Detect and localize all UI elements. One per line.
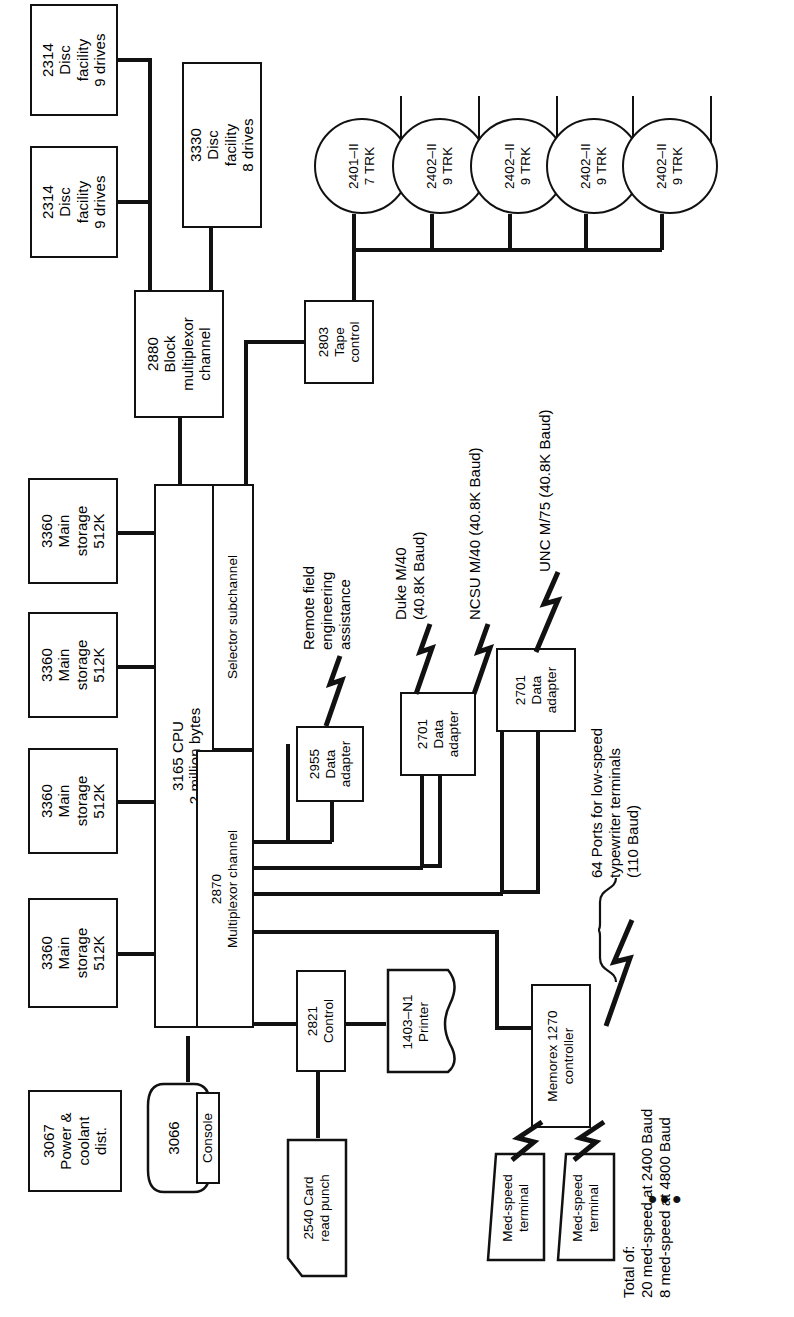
node-label: 2314 Disc facility 9 drives bbox=[39, 175, 109, 228]
link-2880-cpu bbox=[178, 418, 182, 484]
tape-drop-5 bbox=[660, 214, 664, 250]
link-2314b-bus bbox=[118, 200, 152, 204]
node-label: 2402–II 9 TRK bbox=[502, 143, 533, 189]
bolt-icon-ncsu bbox=[464, 622, 498, 696]
tape-drop-1 bbox=[352, 214, 356, 250]
node-label: 3067 Power & coolant dist. bbox=[40, 1112, 110, 1169]
node-med-speed-terminal-2[interactable]: Med-speed terminal bbox=[556, 1152, 616, 1262]
node-label: 2314 Disc facility 9 drives bbox=[39, 33, 109, 86]
node-2701-data-adapter-2[interactable]: 2701 Data adapter bbox=[496, 648, 576, 732]
node-med-speed-terminal-1[interactable]: Med-speed terminal bbox=[486, 1152, 546, 1262]
node-label: 3360 Main storage 512K bbox=[38, 506, 108, 557]
node-label: 2701 Data adapter bbox=[415, 711, 462, 758]
link-mem-2 bbox=[118, 665, 154, 669]
tape-drop-2 bbox=[430, 214, 434, 250]
node-label: Console bbox=[200, 1113, 216, 1163]
node-label: Memorex 1270 controller bbox=[545, 1010, 576, 1101]
mpx-rail-4-v bbox=[495, 930, 499, 1028]
link-mem-4 bbox=[118, 952, 154, 956]
node-label: 2870 Multiplexor channel bbox=[209, 830, 240, 948]
node-label: 3330 Disc facility 8 drives bbox=[187, 118, 257, 171]
node-2803-tape-control[interactable]: 2803 Tape control bbox=[304, 300, 374, 384]
node-2314-disc-a[interactable]: 2314 Disc facility 9 drives bbox=[30, 4, 118, 116]
node-tape-5[interactable]: 2402–II 9 TRK bbox=[622, 118, 718, 214]
node-label: 2402–II 9 TRK bbox=[578, 143, 609, 189]
node-3067-power-coolant[interactable]: 3067 Power & coolant dist. bbox=[28, 1090, 122, 1192]
link-2821-printer bbox=[346, 1022, 386, 1026]
link-2803-tapebus bbox=[352, 250, 356, 300]
link-2314a-bus bbox=[118, 58, 152, 62]
bolt-icon-unc bbox=[528, 570, 566, 654]
mpx-rail-3 bbox=[253, 892, 503, 896]
node-label: 2402–II 9 TRK bbox=[654, 143, 685, 189]
node-label: 2803 Tape control bbox=[316, 321, 363, 362]
mpx-rail-1 bbox=[253, 840, 289, 844]
node-label: 3360 Main storage 512K bbox=[38, 776, 108, 827]
link-mpx-2821 bbox=[253, 1022, 297, 1026]
tape-drop-4 bbox=[584, 214, 588, 250]
node-2880-block-mpx-channel[interactable]: 2880 Block multiplexor channel bbox=[134, 290, 224, 418]
node-2821-control[interactable]: 2821 Control bbox=[296, 970, 346, 1072]
node-selector-subchannel[interactable]: Selector subchannel bbox=[212, 484, 254, 750]
node-2955-data-adapter[interactable]: 2955 Data adapter bbox=[296, 726, 364, 802]
node-label: 2821 Control bbox=[305, 999, 336, 1043]
link-mem-3 bbox=[118, 800, 154, 804]
link-2803-elbow-h bbox=[244, 340, 306, 344]
label-duke-link: Duke M/40 (40.8K Baud) bbox=[392, 532, 428, 620]
node-2540-card-read-punch[interactable]: 2540 Card read punch bbox=[286, 1138, 348, 1278]
node-label: 3066 bbox=[165, 1121, 182, 1154]
node-memorex-1270-controller[interactable]: Memorex 1270 controller bbox=[531, 984, 591, 1128]
diagram-canvas: 2314 Disc facility 9 drives 2314 Disc fa… bbox=[0, 0, 794, 1317]
node-label: 3360 Main storage 512K bbox=[38, 640, 108, 691]
node-label: 3360 Main storage 512K bbox=[38, 928, 108, 979]
label-ncsu-link: NCSU M/40 (40.8K Baud) bbox=[466, 447, 484, 620]
node-console-panel[interactable]: Console bbox=[196, 1092, 220, 1184]
node-label: 2880 Block multiplexor channel bbox=[144, 317, 214, 391]
bolt-icon-med-speed-1 bbox=[508, 1120, 548, 1162]
label-64-ports: 64 Ports for low-speed typewriter termin… bbox=[588, 728, 642, 878]
brace-64-ports bbox=[596, 876, 622, 984]
node-2314-disc-b[interactable]: 2314 Disc facility 9 drives bbox=[30, 146, 118, 258]
node-label: 2540 Card read punch bbox=[301, 1174, 332, 1242]
node-2701-data-adapter-1[interactable]: 2701 Data adapter bbox=[400, 692, 476, 776]
mpx-rail-3-v bbox=[500, 726, 504, 894]
tape-drop-3 bbox=[508, 214, 512, 250]
mpx-rail-1-v bbox=[286, 744, 290, 842]
link-2701a-v bbox=[438, 775, 442, 867]
link-mem-1 bbox=[118, 531, 154, 535]
bolt-icon-field-engineering bbox=[316, 654, 350, 728]
node-label: 2402–II 9 TRK bbox=[424, 143, 455, 189]
mpx-rail-4 bbox=[253, 930, 499, 934]
node-label: 2955 Data adapter bbox=[307, 741, 354, 788]
bolt-icon-med-speed-2 bbox=[570, 1120, 610, 1162]
node-3360-main-storage-1[interactable]: 3360 Main storage 512K bbox=[28, 478, 118, 584]
link-2803-elbow-v bbox=[244, 340, 248, 484]
link-2821-2540 bbox=[316, 1072, 320, 1138]
link-2701b-h bbox=[500, 890, 540, 894]
node-label: 2701 Data adapter bbox=[513, 667, 560, 714]
label-totals: Total of: 20 med-speed at 2400 Baud 8 me… bbox=[620, 1109, 674, 1298]
node-3360-main-storage-2[interactable]: 3360 Main storage 512K bbox=[28, 612, 118, 718]
label-unc-link: UNC M/75 (40.8K Baud) bbox=[536, 409, 554, 572]
mpx-rail-2 bbox=[253, 866, 423, 870]
label-remote-field-engineering: Remote field engineering assistance bbox=[300, 566, 354, 650]
link-2955-h bbox=[286, 840, 332, 844]
node-label: Selector subchannel bbox=[225, 555, 241, 679]
mpx-rail-4-end bbox=[495, 1026, 533, 1030]
node-3360-main-storage-4[interactable]: 3360 Main storage 512K bbox=[28, 898, 118, 1008]
node-2870-multiplexor-channel[interactable]: 2870 Multiplexor channel bbox=[196, 750, 254, 1028]
node-1403-printer[interactable]: 1403–N1 Printer bbox=[386, 968, 468, 1074]
tape-bus bbox=[352, 248, 662, 252]
link-2701b-v bbox=[536, 732, 540, 894]
link-2955-v bbox=[330, 800, 334, 842]
node-label: Med-speed terminal bbox=[570, 1174, 601, 1242]
link-2701a-h bbox=[420, 864, 442, 868]
bolt-icon-duke bbox=[406, 622, 440, 696]
node-label: 2401–II 7 TRK bbox=[346, 143, 377, 189]
link-disc-trunk bbox=[148, 58, 152, 298]
node-label: 1403–N1 Printer bbox=[400, 995, 431, 1050]
node-3330-disc[interactable]: 3330 Disc facility 8 drives bbox=[182, 62, 262, 228]
node-3360-main-storage-3[interactable]: 3360 Main storage 512K bbox=[28, 748, 118, 854]
node-label: Med-speed terminal bbox=[500, 1174, 531, 1242]
